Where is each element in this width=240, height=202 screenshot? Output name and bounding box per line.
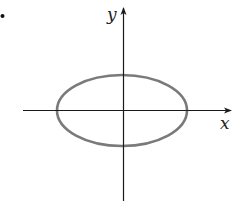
x-axis-label: x xyxy=(220,113,230,133)
y-axis-label: y xyxy=(106,4,117,24)
bullet-marker xyxy=(1,14,5,18)
ellipse-diagram: y x xyxy=(0,0,240,202)
